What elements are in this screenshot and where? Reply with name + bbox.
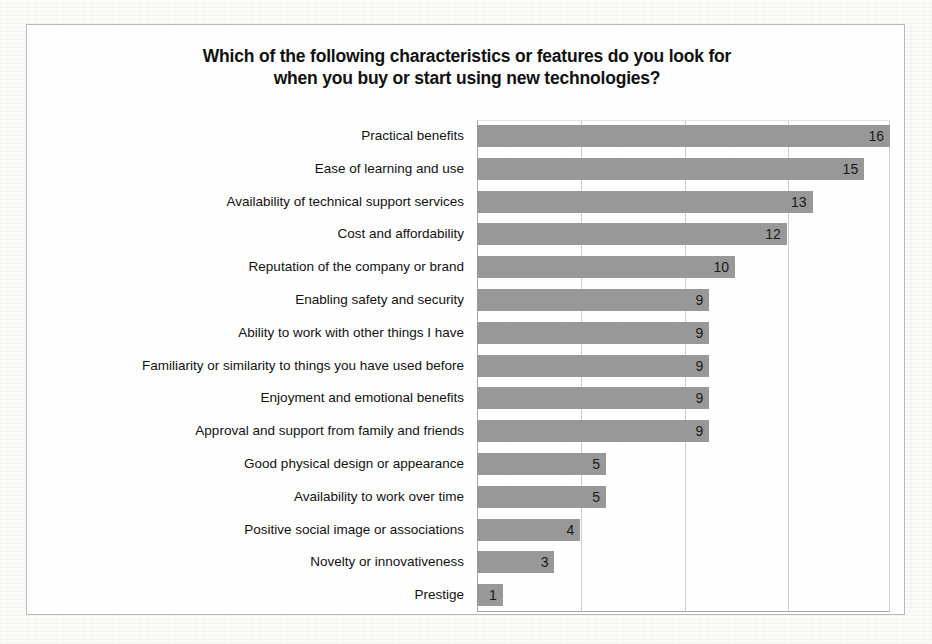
bar-value-label: 9: [694, 322, 703, 344]
bar-value-label: 10: [711, 256, 729, 278]
category-label: Reputation of the company or brand: [249, 251, 464, 284]
bar-value-label: 9: [694, 420, 703, 442]
bar-row: 5: [477, 448, 890, 481]
bar[interactable]: [477, 158, 864, 180]
category-label: Availability to work over time: [294, 481, 464, 514]
bar-row: 3: [477, 546, 890, 579]
bar-value-label: 5: [591, 453, 600, 475]
bar-row: 10: [477, 251, 890, 284]
bar[interactable]: [477, 322, 709, 344]
bar[interactable]: [477, 289, 709, 311]
chart-title: Which of the following characteristics o…: [87, 45, 847, 89]
bar[interactable]: [477, 453, 606, 475]
bar-value-label: 13: [789, 191, 807, 213]
bar[interactable]: [477, 355, 709, 377]
bar-row: 9: [477, 415, 890, 448]
category-label: Approval and support from family and fri…: [195, 415, 464, 448]
category-label: Enabling safety and security: [295, 284, 464, 317]
category-label: Availability of technical support servic…: [226, 186, 464, 219]
bar-value-label: 4: [565, 519, 574, 541]
bar-row: 15: [477, 153, 890, 186]
bar-row: 9: [477, 317, 890, 350]
category-label: Familiarity or similarity to things you …: [142, 350, 464, 383]
bar[interactable]: [477, 387, 709, 409]
category-label: Ease of learning and use: [315, 153, 464, 186]
bar-value-label: 1: [488, 584, 497, 606]
bar-value-label: 5: [591, 486, 600, 508]
category-label: Good physical design or appearance: [244, 448, 464, 481]
bar-row: 4: [477, 514, 890, 547]
bar-value-label: 3: [539, 551, 548, 573]
category-label: Cost and affordability: [337, 218, 464, 251]
bar-row: 12: [477, 218, 890, 251]
bar[interactable]: [477, 125, 890, 147]
bar-value-label: 12: [763, 223, 781, 245]
category-label: Practical benefits: [361, 120, 464, 153]
bar-value-label: 9: [694, 289, 703, 311]
bar-value-label: 9: [694, 387, 703, 409]
bar-row: 9: [477, 382, 890, 415]
bar[interactable]: [477, 256, 735, 278]
bar[interactable]: [477, 420, 709, 442]
category-label: Enjoyment and emotional benefits: [261, 382, 464, 415]
bar-row: 5: [477, 481, 890, 514]
bar-value-label: 15: [840, 158, 858, 180]
bar-value-label: 9: [694, 355, 703, 377]
bar[interactable]: [477, 486, 606, 508]
category-label: Ability to work with other things I have: [238, 317, 464, 350]
bar-row: 16: [477, 120, 890, 153]
bar-row: 9: [477, 350, 890, 383]
bar[interactable]: [477, 223, 787, 245]
bar[interactable]: [477, 191, 813, 213]
bar-value-label: 16: [866, 125, 884, 147]
bar-row: 9: [477, 284, 890, 317]
bar-series: 16151312109999955431: [477, 120, 890, 612]
category-label: Novelty or innovativeness: [310, 546, 464, 579]
category-label: Positive social image or associations: [244, 514, 464, 547]
category-label: Prestige: [414, 579, 464, 612]
bar-row: 1: [477, 579, 890, 612]
bar-row: 13: [477, 186, 890, 219]
category-axis-labels: Practical benefitsEase of learning and u…: [40, 120, 472, 612]
